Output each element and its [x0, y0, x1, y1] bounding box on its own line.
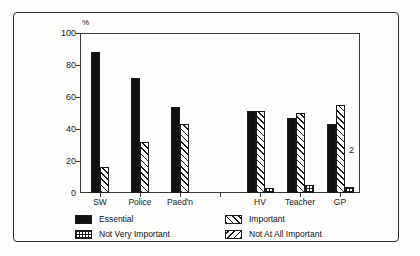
- legend-swatch-forward-hatch: [225, 215, 242, 224]
- bar-important: [256, 111, 265, 193]
- bar-not-very-important: [305, 185, 314, 193]
- bar-important: [100, 167, 109, 193]
- bar-essential: [247, 111, 256, 193]
- legend-item-essential: Essential: [75, 214, 134, 224]
- legend-label: Not Very Important: [99, 229, 170, 239]
- bar-group-teacher: [287, 34, 314, 193]
- legend-label: Essential: [99, 214, 134, 224]
- y-axis-tick-label: 60: [46, 92, 76, 102]
- x-axis-tick-label-sw: SW: [93, 197, 107, 207]
- bar-group-paed-n: [171, 34, 189, 193]
- bar-important: [140, 142, 149, 193]
- y-axis-unit-label: %: [82, 18, 89, 27]
- bar-essential: [91, 52, 100, 193]
- bar-essential: [327, 124, 336, 193]
- legend-swatch-grid: [75, 230, 92, 239]
- y-axis-tick-label: 80: [46, 60, 76, 70]
- y-axis-tick-label: 20: [46, 156, 76, 166]
- chart-legend: EssentialImportantNot Very ImportantNot …: [75, 214, 375, 244]
- x-axis-tick-label-gp: GP: [334, 197, 346, 207]
- legend-label: Important: [249, 214, 285, 224]
- bar-essential: [131, 78, 140, 193]
- bar-essential: [287, 118, 296, 193]
- legend-item-important: Important: [225, 214, 285, 224]
- legend-swatch-solid-black: [75, 215, 92, 224]
- chart-figure: % 020406080100 SWPolicePaed'nHVTeacherGP…: [0, 0, 420, 256]
- legend-item-not-at-all-important: Not At All Important: [225, 229, 322, 239]
- bar-group-sw: [91, 34, 109, 193]
- data-annotation: 2: [349, 145, 354, 155]
- x-axis-tick-label-teacher: Teacher: [285, 197, 315, 207]
- legend-item-not-very-important: Not Very Important: [75, 229, 170, 239]
- bar-groups: [81, 34, 359, 193]
- bar-group-hv: [247, 34, 274, 193]
- bar-essential: [171, 107, 180, 193]
- x-axis-tick-labels: SWPolicePaed'nHVTeacherGP: [80, 197, 361, 209]
- y-axis-tick-labels: 020406080100: [45, 33, 76, 193]
- legend-label: Not At All Important: [249, 229, 322, 239]
- x-axis-tick-label-paed-n: Paed'n: [167, 197, 193, 207]
- bar-group-police: [131, 34, 149, 193]
- bar-group-gp: [327, 34, 354, 193]
- x-axis-tick-label-hv: HV: [254, 197, 266, 207]
- bar-important: [180, 124, 189, 193]
- x-axis-tick-label-police: Police: [128, 197, 151, 207]
- y-axis-tick-label: 40: [46, 124, 76, 134]
- legend-swatch-back-hatch: [225, 230, 242, 239]
- bar-important: [336, 105, 345, 193]
- y-axis-tick-label: 0: [46, 188, 76, 198]
- y-axis-tick-label: 100: [46, 28, 76, 38]
- bar-important: [296, 113, 305, 193]
